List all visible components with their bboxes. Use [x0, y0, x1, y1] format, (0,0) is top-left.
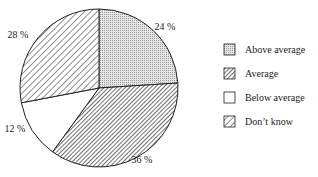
pie-chart: 24 %36 %12 %28 % Above averageAverageBel… [0, 0, 318, 177]
legend-swatch [224, 68, 235, 79]
legend-label: Don’t know [245, 116, 294, 127]
legend-label: Average [245, 68, 279, 79]
legend-label: Above average [245, 44, 306, 55]
legend-label: Below average [245, 92, 305, 103]
slice-label: 36 % [132, 154, 153, 165]
slice-label: 28 % [8, 29, 29, 40]
slice-label: 12 % [5, 123, 26, 134]
legend-swatch [224, 92, 235, 103]
legend-swatch [224, 116, 235, 127]
pie-slice-don-t-know [20, 9, 99, 103]
legend-swatch [224, 44, 235, 55]
slice-label: 24 % [155, 21, 176, 32]
